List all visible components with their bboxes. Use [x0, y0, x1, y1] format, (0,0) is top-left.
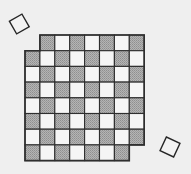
light-square	[100, 51, 115, 67]
light-square	[114, 98, 129, 114]
removed-corner-bottom-right-square	[160, 137, 180, 157]
light-square	[40, 82, 55, 98]
light-square	[40, 145, 55, 161]
chessboard	[25, 35, 144, 161]
dark-square	[85, 82, 100, 98]
dark-square	[55, 114, 70, 130]
dark-square	[25, 51, 40, 67]
dark-square	[70, 98, 85, 114]
mutilated-chessboard-diagram	[0, 0, 191, 174]
light-square	[55, 66, 70, 82]
dark-square	[114, 82, 129, 98]
dark-square	[85, 114, 100, 130]
light-square	[100, 145, 115, 161]
light-square	[85, 98, 100, 114]
dark-square	[114, 114, 129, 130]
light-square	[85, 35, 100, 51]
dark-square	[70, 66, 85, 82]
light-square	[25, 66, 40, 82]
dark-square	[129, 98, 144, 114]
light-square	[70, 82, 85, 98]
light-square	[70, 145, 85, 161]
dark-square	[85, 145, 100, 161]
light-square	[114, 35, 129, 51]
dark-square	[129, 129, 144, 145]
light-square	[55, 129, 70, 145]
dark-square	[100, 98, 115, 114]
light-square	[100, 114, 115, 130]
dark-square	[55, 51, 70, 67]
light-square	[114, 129, 129, 145]
light-square	[129, 51, 144, 67]
dark-square	[70, 129, 85, 145]
light-square	[114, 66, 129, 82]
light-square	[25, 129, 40, 145]
dark-square	[25, 82, 40, 98]
diagram-canvas	[0, 0, 191, 174]
light-square	[55, 98, 70, 114]
dark-square	[40, 129, 55, 145]
dark-square	[25, 145, 40, 161]
dark-square	[40, 66, 55, 82]
dark-square	[129, 66, 144, 82]
light-square	[85, 129, 100, 145]
light-square	[129, 114, 144, 130]
light-square	[55, 35, 70, 51]
light-square	[40, 51, 55, 67]
dark-square	[55, 82, 70, 98]
dark-square	[70, 35, 85, 51]
dark-square	[129, 35, 144, 51]
dark-square	[100, 35, 115, 51]
dark-square	[100, 129, 115, 145]
dark-square	[114, 51, 129, 67]
light-square	[40, 114, 55, 130]
removed-corner-top-left-square	[9, 14, 29, 34]
dark-square	[25, 114, 40, 130]
light-square	[25, 98, 40, 114]
dark-square	[85, 51, 100, 67]
light-square	[70, 51, 85, 67]
dark-square	[55, 145, 70, 161]
light-square	[70, 114, 85, 130]
dark-square	[40, 98, 55, 114]
dark-square	[40, 35, 55, 51]
light-square	[129, 82, 144, 98]
light-square	[85, 66, 100, 82]
dark-square	[100, 66, 115, 82]
light-square	[100, 82, 115, 98]
dark-square	[114, 145, 129, 161]
